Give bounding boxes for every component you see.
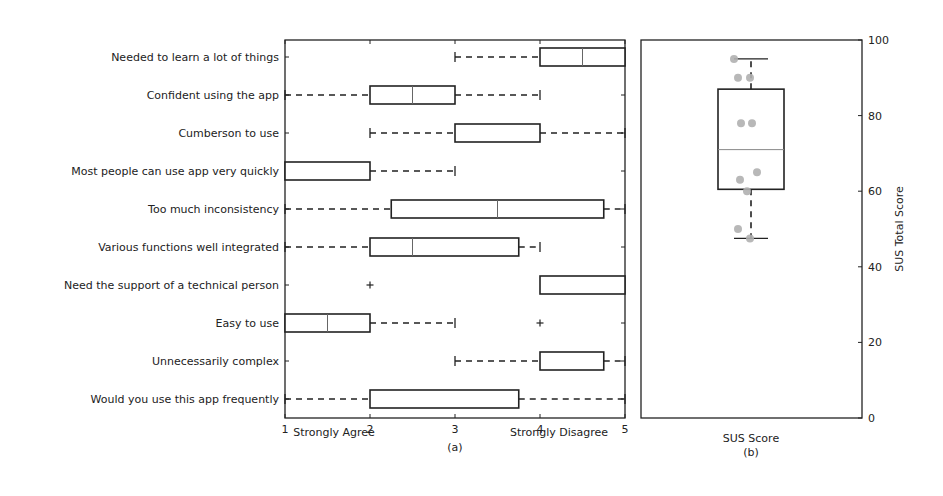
data-point: [734, 74, 742, 82]
box: [370, 238, 519, 256]
data-point: [753, 168, 761, 176]
category-label: Unnecessarily complex: [152, 355, 280, 368]
y-tick-label: 80: [868, 110, 882, 123]
y-tick-label: 0: [868, 412, 875, 425]
box: [455, 124, 540, 142]
figure: 12345Needed to learn a lot of thingsConf…: [0, 0, 943, 496]
data-point: [746, 74, 754, 82]
plot-frame: [641, 40, 862, 418]
data-point: [737, 119, 745, 127]
category-label: Easy to use: [216, 317, 280, 330]
data-point: [734, 225, 742, 233]
y-tick-label: 40: [868, 261, 882, 274]
x-label-sus-score: SUS Score: [723, 432, 780, 445]
box: [370, 390, 519, 408]
box: [718, 89, 784, 189]
category-label: Needed to learn a lot of things: [111, 51, 279, 64]
x-label-strongly-disagree: Strongly Disagree: [510, 426, 608, 439]
category-label: Confident using the app: [147, 89, 279, 102]
data-point: [743, 187, 751, 195]
panel-a-likert-boxplot: 12345Needed to learn a lot of thingsConf…: [64, 40, 629, 436]
box: [285, 162, 370, 180]
x-tick-label: 3: [452, 423, 459, 436]
box: [540, 352, 604, 370]
category-label: Would you use this app frequently: [91, 393, 280, 406]
data-point: [730, 55, 738, 63]
panel-a-caption: (a): [447, 441, 462, 454]
data-point: [746, 234, 754, 242]
box: [540, 276, 625, 294]
category-label: Various functions well integrated: [98, 241, 279, 254]
y-tick-label: 60: [868, 185, 882, 198]
x-tick-label: 1: [282, 423, 289, 436]
panel-b-caption: (b): [743, 446, 759, 459]
y-label-sus-total-score: SUS Total Score: [893, 186, 906, 272]
category-label: Most people can use app very quickly: [71, 165, 279, 178]
data-point: [748, 119, 756, 127]
y-tick-label: 100: [868, 34, 889, 47]
data-point: [736, 176, 744, 184]
category-label: Too much inconsistency: [147, 203, 279, 216]
category-label: Cumberson to use: [178, 127, 279, 140]
category-label: Need the support of a technical person: [64, 279, 279, 292]
panel-b-sus-boxplot: 020406080100: [641, 34, 889, 425]
x-tick-label: 5: [622, 423, 629, 436]
x-label-strongly-agree: Strongly Agree: [293, 426, 375, 439]
y-tick-label: 20: [868, 336, 882, 349]
